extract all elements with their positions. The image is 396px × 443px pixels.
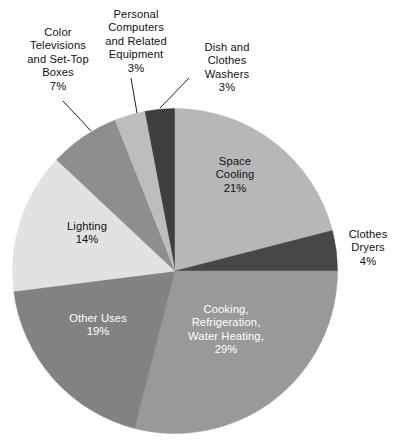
slice-label-personal-computers-line-2: Computers (84, 21, 188, 34)
slice-label-cooking-value: 29% (168, 343, 284, 356)
slice-label-lighting: Lighting 14% (42, 220, 132, 247)
slice-label-personal-computers-line-4: Equipment (84, 48, 188, 61)
slice-label-clothes-dryers-line-1: Clothes (340, 228, 396, 241)
slice-label-clothes-dryers: Clothes Dryers 4% (340, 228, 396, 268)
pie-slices (12, 109, 337, 434)
slice-label-dish-washers-line-3: Washers (184, 68, 270, 81)
slice-label-other-uses-value: 19% (48, 325, 148, 338)
slice-label-cooking-line-3: Water Heating, (168, 330, 284, 343)
slice-label-personal-computers: Personal Computers and Related Equipment… (84, 8, 188, 75)
slice-label-cooking-line-1: Cooking, (168, 303, 284, 316)
slice-label-cooking: Cooking, Refrigeration, Water Heating, 2… (168, 303, 284, 357)
slice-label-dish-washers-line-1: Dish and (184, 41, 270, 54)
pie-chart: Color Televisions and Set-Top Boxes 7% P… (0, 0, 396, 443)
slice-label-other-uses: Other Uses 19% (48, 312, 148, 339)
leader-line-color-televisions (63, 101, 91, 131)
slice-label-clothes-dryers-line-2: Dryers (340, 241, 396, 254)
slice-label-personal-computers-line-1: Personal (84, 8, 188, 21)
slice-label-color-televisions-value: 7% (6, 80, 110, 93)
slice-label-other-uses-line-1: Other Uses (48, 312, 148, 325)
slice-label-personal-computers-line-3: and Related (84, 35, 188, 48)
slice-label-space-cooling-line-1: Space (190, 155, 280, 168)
slice-label-dish-washers-value: 3% (184, 81, 270, 94)
slice-label-clothes-dryers-value: 4% (340, 255, 396, 268)
slice-label-dish-washers-line-2: Clothes (184, 54, 270, 67)
slice-label-dish-washers: Dish and Clothes Washers 3% (184, 41, 270, 95)
slice-label-cooking-line-2: Refrigeration, (168, 316, 284, 329)
slice-label-personal-computers-value: 3% (84, 62, 188, 75)
leader-line-personal-computers (131, 78, 137, 113)
slice-label-space-cooling-value: 21% (190, 182, 280, 195)
slice-label-lighting-value: 14% (42, 233, 132, 246)
slice-label-space-cooling-line-2: Cooling (190, 168, 280, 181)
slice-label-lighting-line-1: Lighting (42, 220, 132, 233)
slice-label-space-cooling: Space Cooling 21% (190, 155, 280, 195)
